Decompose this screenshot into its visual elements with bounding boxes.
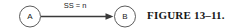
figure-container: A B SS = n FIGURE 13–11.: [0, 0, 225, 28]
edge-a-to-b-arrowhead: [106, 13, 114, 20]
diagram-canvas: A B SS = n: [0, 0, 145, 28]
edge-a-to-b-label: SS = n: [64, 1, 87, 10]
node-b-label: B: [122, 12, 127, 21]
node-a-label: A: [27, 12, 33, 21]
network-diagram: A B SS = n: [0, 0, 145, 28]
figure-caption: FIGURE 13–11.: [147, 9, 225, 22]
